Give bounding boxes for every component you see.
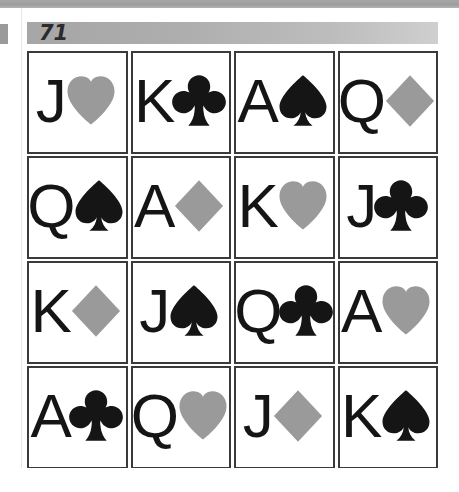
card-face: K xyxy=(134,70,227,132)
card-rank: A xyxy=(31,385,72,447)
diamond-icon xyxy=(270,385,326,447)
page-edge-tab xyxy=(0,24,8,44)
playing-card[interactable]: A xyxy=(27,366,128,469)
card-face: J xyxy=(243,385,326,447)
heart-icon xyxy=(378,280,434,342)
page-top-band xyxy=(0,0,459,8)
club-icon xyxy=(373,175,429,237)
card-rank: A xyxy=(238,70,279,132)
playing-card[interactable]: K xyxy=(27,261,128,364)
club-icon xyxy=(278,280,334,342)
puzzle-number: 71 xyxy=(39,21,68,45)
playing-card[interactable]: J xyxy=(131,261,232,364)
playing-card[interactable]: J xyxy=(27,51,128,154)
page-left-gutter xyxy=(0,8,22,492)
diamond-icon xyxy=(171,175,227,237)
card-face: A xyxy=(31,385,124,447)
card-rank: Q xyxy=(27,175,75,237)
heart-icon xyxy=(63,70,119,132)
playing-card[interactable]: A xyxy=(131,156,232,259)
card-face: J xyxy=(36,70,119,132)
playing-card[interactable]: A xyxy=(234,51,335,154)
card-face: K xyxy=(238,175,331,237)
card-face: Q xyxy=(338,70,438,132)
playing-card[interactable]: K xyxy=(234,156,335,259)
card-face: J xyxy=(139,280,222,342)
playing-card[interactable]: Q xyxy=(131,366,232,469)
page-bottom-space xyxy=(0,468,459,492)
card-face: J xyxy=(346,175,429,237)
card-face: A xyxy=(238,70,331,132)
card-rank: A xyxy=(341,280,382,342)
puzzle-header-bar: 71 xyxy=(27,22,438,44)
card-face: A xyxy=(341,280,434,342)
card-face: Q xyxy=(27,175,127,237)
playing-card[interactable]: A xyxy=(338,261,439,364)
spade-icon xyxy=(378,385,434,447)
card-rank: A xyxy=(134,175,175,237)
card-rank: Q xyxy=(234,280,282,342)
card-rank: K xyxy=(134,70,175,132)
club-icon xyxy=(68,385,124,447)
playing-card[interactable]: Q xyxy=(338,51,439,154)
card-face: K xyxy=(31,280,124,342)
card-face: Q xyxy=(131,385,231,447)
heart-icon xyxy=(175,385,231,447)
card-rank: K xyxy=(31,280,72,342)
playing-card[interactable]: Q xyxy=(234,261,335,364)
club-icon xyxy=(171,70,227,132)
card-rank: Q xyxy=(131,385,179,447)
card-face: K xyxy=(341,385,434,447)
diamond-icon xyxy=(382,70,438,132)
heart-icon xyxy=(275,175,331,237)
spade-icon xyxy=(71,175,127,237)
playing-card[interactable]: J xyxy=(234,366,335,469)
spade-icon xyxy=(166,280,222,342)
card-face: Q xyxy=(234,280,334,342)
card-rank: K xyxy=(238,175,279,237)
card-face: A xyxy=(134,175,227,237)
diamond-icon xyxy=(68,280,124,342)
playing-card[interactable]: Q xyxy=(27,156,128,259)
spade-icon xyxy=(275,70,331,132)
card-rank: Q xyxy=(338,70,386,132)
playing-card[interactable]: J xyxy=(338,156,439,259)
card-rank: K xyxy=(341,385,382,447)
card-grid: JKAQQAKJKJQAAQJK xyxy=(27,51,438,469)
playing-card[interactable]: K xyxy=(338,366,439,469)
playing-card[interactable]: K xyxy=(131,51,232,154)
